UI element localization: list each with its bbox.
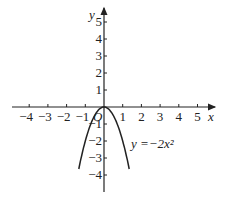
x-tick-label: 1 [119,109,126,124]
x-tick-label: 4 [176,109,183,124]
y-tick-label: −4 [88,167,102,182]
x-tick-label: −1 [75,109,89,124]
function-label: y =−2x² [129,136,175,151]
y-tick-label: 1 [96,82,103,97]
x-axis-label: x [207,109,214,124]
y-tick-label: 3 [96,48,103,63]
y-tick-label: −3 [88,150,102,165]
y-tick-label: 4 [96,31,103,46]
origin-label: O [93,109,103,124]
x-tick-label: 3 [157,109,164,124]
y-tick-label: 2 [96,65,103,80]
x-tick-label: 2 [138,109,145,124]
y-axis-label: y [87,7,95,22]
y-tick-label: −2 [88,133,102,148]
x-tick-label: −3 [38,109,52,124]
x-tick-label: −4 [19,109,33,124]
parabola-chart: −4−3−2−112345 −4−3−2−112345 x y O y =−2x… [0,0,226,199]
x-tick-label: −2 [57,109,71,124]
y-tick-label: 5 [96,14,103,29]
x-tick-label: 5 [194,109,201,124]
